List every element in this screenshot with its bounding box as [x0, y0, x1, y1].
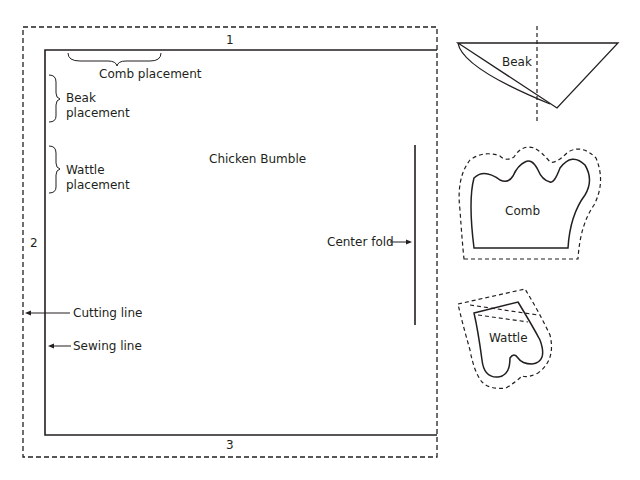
beak-piece-label: Beak: [502, 55, 532, 69]
beak-placement-label-line2: placement: [66, 106, 130, 120]
arrow-head-icon: [406, 240, 412, 245]
wattle-placement-label-line1: Wattle: [66, 163, 105, 177]
wattle-placement-label-line2: placement: [66, 178, 130, 192]
center-fold-label: Center fold: [327, 235, 394, 249]
cutting-line-label: Cutting line: [73, 306, 142, 320]
wattle-placement-brace: [49, 146, 60, 193]
comb-placement-label: Comb placement: [99, 67, 202, 81]
pattern-title: Chicken Bumble: [209, 152, 306, 166]
wattle-piece-label: Wattle: [489, 331, 528, 345]
sewing-line-label: Sewing line: [73, 339, 142, 353]
edge-label-left: 2: [30, 236, 38, 250]
edge-label-bottom: 3: [226, 438, 234, 452]
arrow-head-icon: [25, 311, 31, 316]
beak-placement-label-line1: Beak: [66, 91, 96, 105]
arrow-head-icon: [48, 344, 54, 349]
beak-piece: [458, 26, 618, 122]
comb-placement-brace: [68, 53, 161, 66]
beak-placement-brace: [49, 75, 60, 122]
comb-piece-label: Comb: [505, 204, 540, 218]
edge-label-top: 1: [226, 33, 234, 47]
pattern-drawing: [0, 0, 640, 480]
